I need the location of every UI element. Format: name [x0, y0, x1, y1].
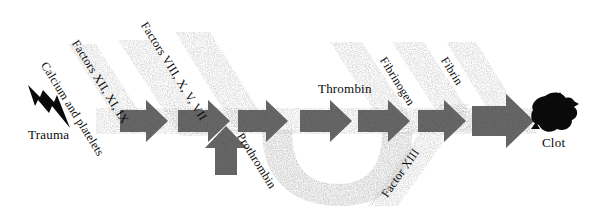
cascade-illustration [0, 0, 589, 224]
coagulation-cascade-diagram: Trauma Calcium and platelets Factors XII… [0, 0, 589, 224]
label-trauma: Trauma [28, 128, 69, 141]
label-thrombin: Thrombin [318, 82, 372, 95]
clot-blob-icon [531, 92, 579, 132]
arrow-to-thrombin [300, 100, 352, 142]
label-clot: Clot [542, 136, 565, 149]
